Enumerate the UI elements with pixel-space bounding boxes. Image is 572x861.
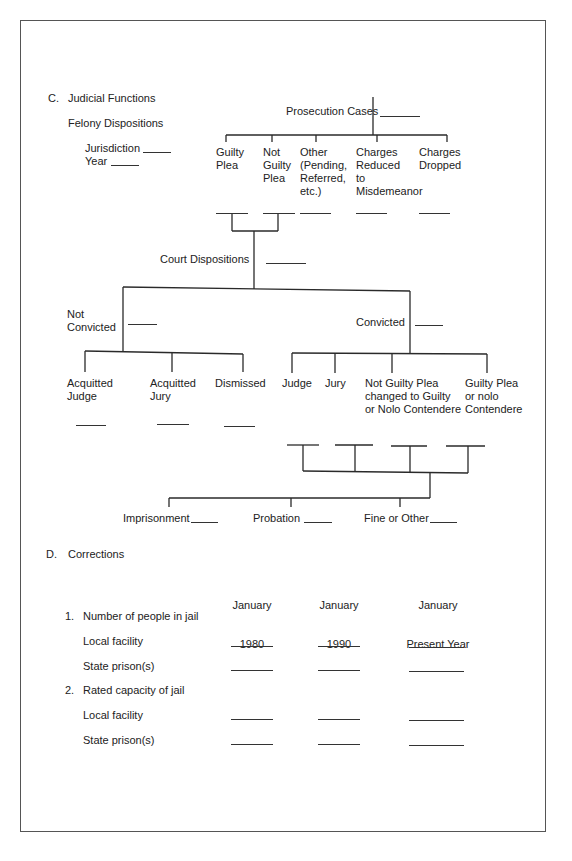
charges-reduced-field[interactable] (356, 213, 387, 214)
g2-local-1990-field[interactable] (318, 719, 360, 720)
g1-local-present-field[interactable] (409, 647, 464, 648)
guilty-plea-field[interactable] (216, 213, 248, 214)
g2-local-present-field[interactable] (409, 720, 464, 721)
g2-state-prisons-label: State prison(s) (83, 734, 155, 747)
column-1980-line2: 1980 (222, 638, 282, 651)
imprisonment-label: Imprisonment (123, 512, 190, 525)
group-1-number: 1. (65, 610, 74, 623)
g1-state-prisons-label: State prison(s) (83, 660, 155, 673)
acquitted-judge-field[interactable] (76, 425, 106, 426)
convicted-field[interactable] (415, 325, 443, 326)
column-header-1980: January 1980 (222, 573, 282, 664)
column-header-present: January Present Year (393, 573, 483, 664)
g1-state-1990-field[interactable] (318, 670, 360, 671)
group-1-title: Number of people in jail (83, 610, 199, 623)
not-convicted-label: Not Convicted (67, 308, 116, 334)
column-present-line1: January (393, 599, 483, 612)
g2-local-facility-label: Local facility (83, 709, 143, 722)
branch-charges-dropped: Charges Dropped (419, 146, 461, 172)
branch-not-guilty-plea: Not Guilty Plea (263, 146, 291, 185)
imprisonment-field[interactable] (191, 522, 218, 523)
g2-state-1980-field[interactable] (231, 744, 273, 745)
disposition-tree-lines (0, 0, 572, 861)
convicted-judge-label: Judge (282, 377, 312, 390)
court-dispositions-field[interactable] (266, 263, 306, 264)
section-d-heading: Corrections (68, 548, 124, 561)
branch-other: Other (Pending, Referred, etc.) (300, 146, 347, 198)
probation-field[interactable] (304, 522, 332, 523)
acquitted-judge-label: Acquitted Judge (67, 377, 113, 403)
g1-local-1990-field[interactable] (318, 646, 360, 647)
court-dispositions-label: Court Dispositions (160, 253, 249, 266)
column-1990-line2: 1990 (309, 638, 369, 651)
fine-or-other-field[interactable] (430, 522, 457, 523)
not-convicted-field[interactable] (128, 324, 157, 325)
guilty-nolo-label: Guilty Plea or nolo Contendere (465, 377, 523, 416)
prosecution-cases-field[interactable] (380, 116, 420, 117)
dismissed-field[interactable] (224, 426, 255, 427)
g2-state-1990-field[interactable] (318, 744, 360, 745)
column-present-line2: Present Year (393, 638, 483, 651)
acquitted-jury-label: Acquitted Jury (150, 377, 196, 403)
g1-local-1980-field[interactable] (231, 646, 273, 647)
fine-or-other-label: Fine or Other (364, 512, 429, 525)
column-1980-line1: January (222, 599, 282, 612)
section-d-letter: D. (46, 548, 57, 561)
convicted-label: Convicted (356, 316, 405, 329)
other-field[interactable] (300, 213, 331, 214)
prosecution-cases-label: Prosecution Cases (286, 105, 378, 118)
dismissed-label: Dismissed (215, 377, 266, 390)
column-1990-line1: January (309, 599, 369, 612)
not-guilty-changed-label: Not Guilty Plea changed to Guilty or Nol… (365, 377, 461, 416)
acquitted-jury-field[interactable] (157, 424, 189, 425)
g2-local-1980-field[interactable] (231, 719, 273, 720)
charges-dropped-field[interactable] (419, 213, 450, 214)
g1-state-present-field[interactable] (409, 671, 464, 672)
branch-guilty-plea: Guilty Plea (216, 146, 244, 172)
group-2-number: 2. (65, 684, 74, 697)
column-header-1990: January 1990 (309, 573, 369, 664)
group-2-title: Rated capacity of jail (83, 684, 185, 697)
g1-local-facility-label: Local facility (83, 635, 143, 648)
g2-state-present-field[interactable] (409, 745, 464, 746)
convicted-jury-label: Jury (325, 377, 346, 390)
branch-charges-reduced: Charges Reduced to Misdemeanor (356, 146, 423, 198)
not-guilty-plea-field[interactable] (263, 213, 295, 214)
g1-state-1980-field[interactable] (231, 670, 273, 671)
probation-label: Probation (253, 512, 300, 525)
